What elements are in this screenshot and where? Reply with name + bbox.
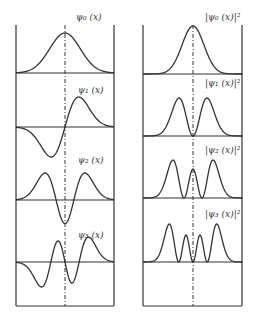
probability-label-1: |ψ₁ (x)|² [205, 78, 241, 89]
wavefunction-label-3: ψ₃ (x) [78, 230, 104, 240]
wavefunction-label-0: ψ₀ (x) [76, 12, 102, 22]
wavefunction-label-1: ψ₁ (x) [78, 85, 104, 95]
probability-label-3: |ψ₃ (x)|² [205, 209, 241, 220]
wavefunction-panel: ψ₀ (x)ψ₁ (x)ψ₂ (x)ψ₃ (x) [16, 12, 114, 306]
probability-density-panel: |ψ₀ (x)|²|ψ₁ (x)|²|ψ₂ (x)|²|ψ₃ (x)|² [143, 12, 243, 306]
probability-label-2: |ψ₂ (x)|² [205, 145, 241, 156]
wavefunction-label-2: ψ₂ (x) [78, 155, 104, 165]
probability-label-0: |ψ₀ (x)|² [205, 12, 241, 23]
harmonic-oscillator-figure: ψ₀ (x)ψ₁ (x)ψ₂ (x)ψ₃ (x) |ψ₀ (x)|²|ψ₁ (x… [0, 0, 254, 323]
